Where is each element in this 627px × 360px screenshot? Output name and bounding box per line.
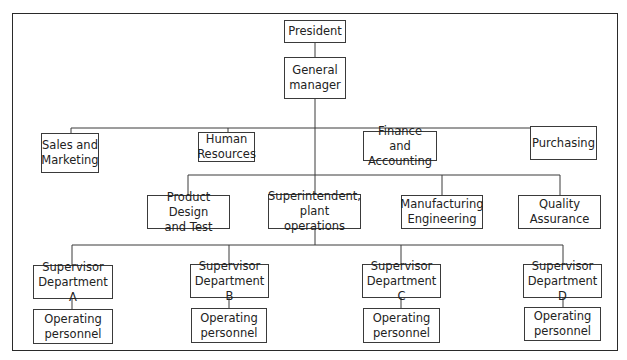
node-product-design[interactable]: Product Design and Test bbox=[147, 195, 230, 229]
node-president[interactable]: President bbox=[284, 20, 346, 43]
node-operating-a[interactable]: Operating personnel bbox=[33, 309, 113, 344]
node-operating-b[interactable]: Operating personnel bbox=[191, 308, 267, 343]
connector-lines bbox=[0, 0, 627, 360]
node-human-resources[interactable]: Human Resources bbox=[198, 132, 255, 162]
node-general-manager[interactable]: General manager bbox=[284, 57, 346, 99]
node-superintendent[interactable]: Superintendent, plant operations bbox=[268, 194, 361, 229]
node-purchasing[interactable]: Purchasing bbox=[530, 126, 597, 160]
node-quality-assurance[interactable]: Quality Assurance bbox=[518, 195, 601, 229]
node-supervisor-d[interactable]: Supervisor Department D bbox=[523, 264, 602, 298]
node-sales-marketing[interactable]: Sales and Marketing bbox=[41, 133, 99, 173]
node-operating-c[interactable]: Operating personnel bbox=[363, 308, 440, 343]
node-operating-d[interactable]: Operating personnel bbox=[524, 307, 601, 341]
node-supervisor-c[interactable]: Supervisor Department C bbox=[362, 264, 441, 298]
node-manufacturing-engineering[interactable]: Manufacturing Engineering bbox=[401, 195, 483, 229]
node-finance-accounting[interactable]: Finance and Accounting bbox=[363, 131, 437, 161]
node-supervisor-b[interactable]: Supervisor Department B bbox=[190, 264, 269, 298]
node-supervisor-a[interactable]: Supervisor Department A bbox=[33, 265, 113, 299]
